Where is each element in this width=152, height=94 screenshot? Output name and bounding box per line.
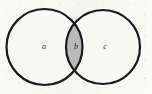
intersection-label: b [74, 43, 78, 51]
left-circle-label: a [42, 43, 46, 51]
right-circle-label: c [103, 43, 107, 51]
venn-diagram-figure: a b c [0, 0, 152, 94]
